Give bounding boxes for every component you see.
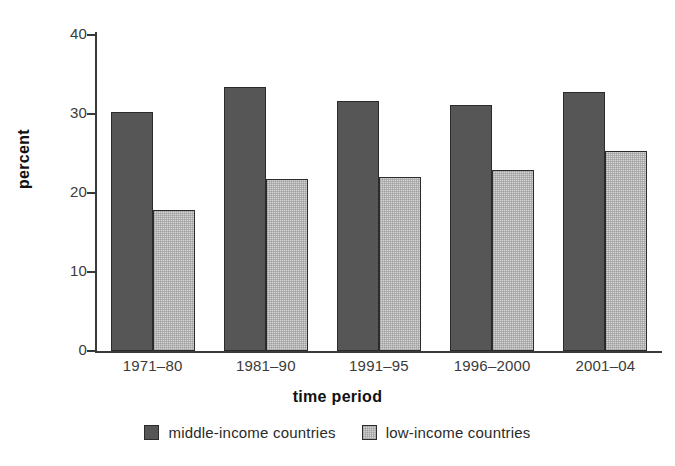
y-tick-label-20: 20 (47, 183, 87, 200)
x-tick-label-2: 1991–95 (322, 357, 435, 374)
bar-0-0 (111, 112, 153, 351)
x-tick-label-0: 1971–80 (96, 357, 209, 374)
bar-1-0 (224, 87, 266, 351)
legend-label-0: middle-income countries (168, 424, 335, 441)
bar-0-1 (153, 210, 195, 351)
y-tick-0 (87, 350, 96, 352)
legend-item-0[interactable]: middle-income countries (144, 424, 335, 441)
y-tick-label-40: 40 (47, 25, 87, 42)
y-tick-30 (87, 113, 96, 115)
y-axis-title: percent (15, 129, 33, 189)
bar-2-0 (337, 101, 379, 351)
y-tick-40 (87, 34, 96, 36)
x-tick-label-4: 2001–04 (549, 357, 662, 374)
y-tick-label-10: 10 (47, 262, 87, 279)
x-tick-label-1: 1981–90 (209, 357, 322, 374)
bar-3-0 (450, 105, 492, 351)
x-axis-title: time period (0, 388, 675, 406)
bar-chart: 010203040 percent 1971–801981–901991–951… (0, 0, 675, 466)
x-axis-line (95, 351, 662, 353)
x-tick-label-3: 1996–2000 (436, 357, 549, 374)
legend-swatch-1 (362, 425, 377, 440)
bar-4-1 (605, 151, 647, 351)
bar-1-1 (266, 179, 308, 351)
legend-item-1[interactable]: low-income countries (362, 424, 531, 441)
y-tick-10 (87, 271, 96, 273)
bar-3-1 (492, 170, 534, 351)
y-tick-20 (87, 192, 96, 194)
bar-2-1 (379, 177, 421, 351)
legend-swatch-0 (144, 425, 159, 440)
y-tick-label-30: 30 (47, 104, 87, 121)
chart-legend: middle-income countrieslow-income countr… (0, 424, 675, 441)
legend-label-1: low-income countries (386, 424, 531, 441)
y-tick-label-0: 0 (47, 341, 87, 358)
bar-4-0 (563, 92, 605, 351)
